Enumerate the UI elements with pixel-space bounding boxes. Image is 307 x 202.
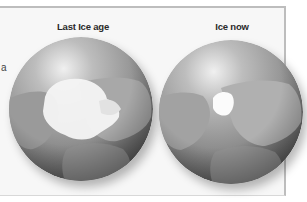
globe-ice-now: [159, 40, 303, 184]
globe-icon: [159, 40, 303, 184]
label-last-ice-age: Last Ice age: [57, 21, 109, 32]
globe-last-ice-age: [9, 37, 153, 181]
cut-off-text: a: [1, 62, 7, 73]
globe-icon: [9, 37, 153, 181]
label-ice-now: Ice now: [215, 21, 248, 32]
